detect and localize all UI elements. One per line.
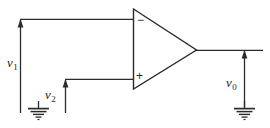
v1-label-base: v — [7, 55, 13, 70]
v2-branch — [63, 79, 134, 113]
v2-label: v2 — [45, 88, 55, 101]
v1-label-subscript: 1 — [13, 62, 18, 72]
v0-label-subscript: 0 — [232, 82, 237, 92]
v2-arrow-head-icon — [63, 79, 69, 88]
v1-arrow-head-icon — [18, 19, 24, 28]
opamp-circuit-diagram: − + v1 v2 v0 — [0, 0, 270, 128]
inverting-input-sign: − — [137, 14, 144, 26]
v0-arrow-head-icon — [242, 50, 248, 59]
ground-right-icon — [234, 101, 255, 120]
v1-branch — [18, 19, 134, 113]
noninverting-input-sign: + — [136, 70, 143, 82]
v0-label: v0 — [226, 76, 236, 89]
v0-label-base: v — [226, 75, 232, 90]
v2-label-subscript: 2 — [51, 94, 56, 104]
v2-label-base: v — [45, 87, 51, 102]
circuit-schematic-canvas — [0, 0, 270, 128]
v1-label: v1 — [7, 56, 17, 69]
ground-left-icon — [28, 101, 49, 120]
